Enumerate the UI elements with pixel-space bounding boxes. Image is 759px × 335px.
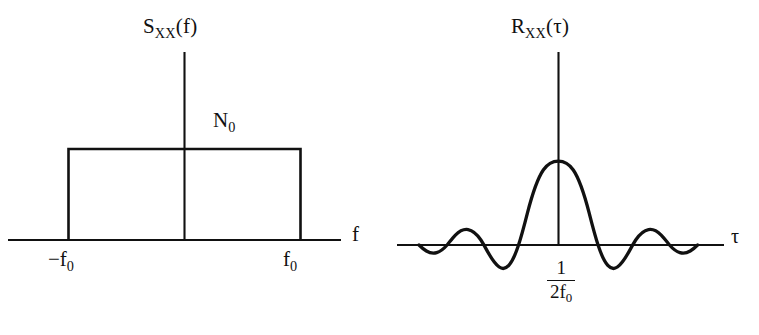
- psd-y-axis-label-argument: (f): [176, 14, 198, 38]
- acf-y-axis-label-base: R: [511, 14, 525, 38]
- fraction-denominator-base: 2f: [550, 281, 566, 302]
- acf-y-axis-label-argument: (τ): [546, 14, 569, 38]
- psd-xtick-negative-f0-base: −f: [48, 247, 67, 271]
- psd-xtick-negative-f0-subscript: 0: [67, 258, 74, 274]
- psd-y-axis-label-base: S: [143, 14, 155, 38]
- psd-x-axis-label: f: [352, 224, 359, 245]
- fraction-denominator: 2f0: [547, 282, 575, 305]
- acf-zero-crossing-label: 1 2f0: [547, 258, 575, 305]
- left-plot-group: [8, 52, 341, 241]
- psd-y-axis-label: SXX(f): [143, 16, 198, 40]
- psd-xtick-label-negative-f0: −f0: [48, 249, 74, 273]
- psd-amplitude-label: N0: [213, 110, 236, 134]
- fraction-numerator: 1: [547, 258, 575, 279]
- psd-xtick-label-f0: f0: [283, 249, 297, 273]
- acf-y-axis-label-subscript: XX: [525, 25, 546, 41]
- acf-y-axis-label: RXX(τ): [511, 16, 569, 40]
- fraction: 1 2f0: [547, 258, 575, 305]
- acf-x-axis-label: τ: [731, 226, 739, 246]
- psd-y-axis-label-subscript: XX: [155, 25, 176, 41]
- psd-amplitude-label-subscript: 0: [228, 119, 235, 135]
- figure-container: SXX(f) N0 −f0 f0 f RXX(τ) 1 2f0 τ: [0, 0, 759, 335]
- psd-xtick-f0-base: f: [283, 247, 290, 271]
- psd-xtick-f0-subscript: 0: [290, 258, 297, 274]
- figure-drawing-layer: [0, 0, 759, 335]
- psd-amplitude-label-base: N: [213, 108, 228, 132]
- fraction-denominator-subscript: 0: [566, 290, 573, 305]
- right-plot-group: [397, 52, 724, 268]
